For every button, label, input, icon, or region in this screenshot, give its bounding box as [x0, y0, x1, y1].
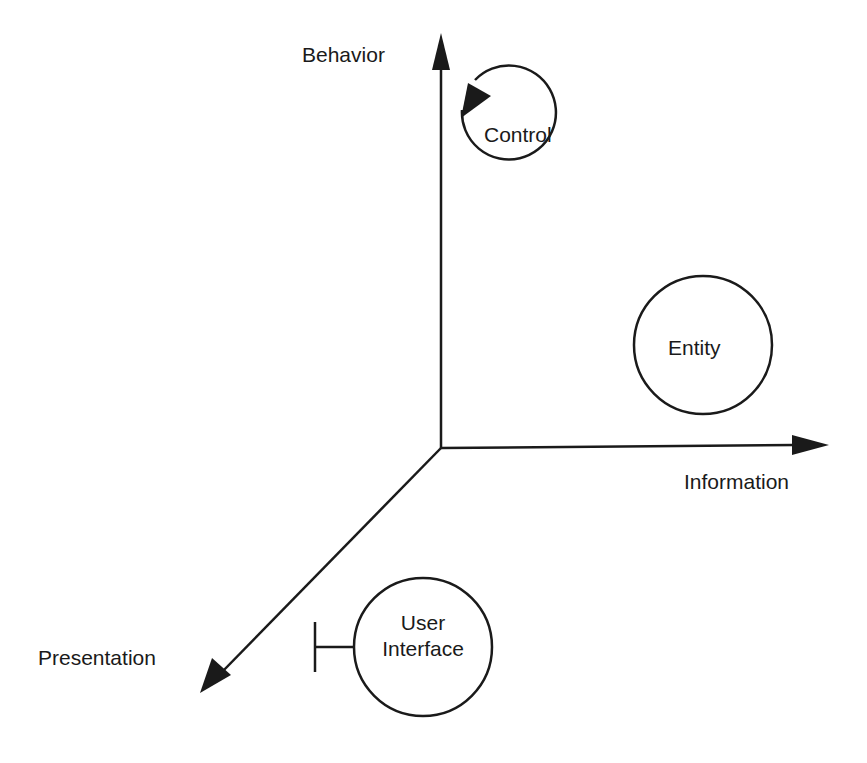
information-axis: [441, 435, 829, 455]
control-label: Control: [484, 124, 552, 145]
ui-label-line1: User: [363, 612, 483, 633]
entity-label: Entity: [668, 337, 721, 358]
presentation-axis-label: Presentation: [38, 647, 156, 668]
information-axis-label: Information: [684, 471, 789, 492]
ui-label-line2: Interface: [363, 638, 483, 659]
behavior-axis-label: Behavior: [302, 44, 385, 65]
behavior-axis: [432, 33, 450, 448]
